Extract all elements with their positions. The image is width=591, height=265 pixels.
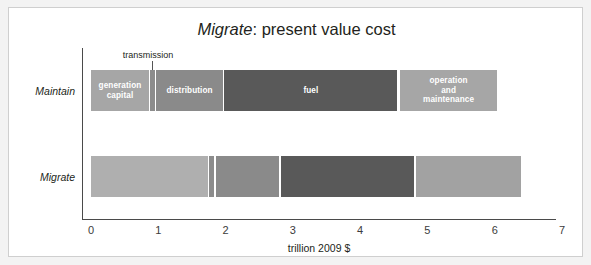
- x-tick-0: 0: [76, 224, 106, 236]
- bar-maintain: generationcapital distribution fuel oper…: [9, 70, 584, 111]
- chart-panel: Migrate: present value cost transmission…: [8, 7, 583, 257]
- segment-maintain-operation-and-maintenance[interactable]: operationandmaintenance: [400, 70, 497, 111]
- x-tick-5: 5: [412, 224, 442, 236]
- x-tick-4: 4: [345, 224, 375, 236]
- segment-maintain-distribution[interactable]: distribution: [156, 70, 223, 111]
- segment-label: fuel: [303, 86, 318, 95]
- segment-migrate-transmission[interactable]: [209, 156, 214, 197]
- bar-migrate: [9, 156, 584, 197]
- segment-maintain-generation-capital[interactable]: generationcapital: [91, 70, 149, 111]
- segment-migrate-operation-and-maintenance[interactable]: [416, 156, 521, 197]
- segment-maintain-transmission[interactable]: [150, 70, 155, 111]
- segment-maintain-fuel[interactable]: fuel: [224, 70, 397, 111]
- transmission-leader-line: [152, 61, 153, 70]
- segment-label: generationcapital: [99, 81, 142, 100]
- x-axis-line: [82, 219, 556, 220]
- x-axis-title: trillion 2009 $: [82, 242, 556, 254]
- plot-area: transmission generationcapital distribut…: [9, 8, 584, 258]
- category-label-migrate: Migrate: [11, 171, 75, 183]
- x-tick-1: 1: [143, 224, 173, 236]
- x-tick-3: 3: [278, 224, 308, 236]
- x-tick-6: 6: [480, 224, 510, 236]
- segment-migrate-fuel[interactable]: [281, 156, 414, 197]
- segment-label: operationandmaintenance: [423, 76, 474, 104]
- category-label-maintain: Maintain: [11, 85, 75, 97]
- x-tick-2: 2: [211, 224, 241, 236]
- chart-screenshot: Migrate: present value cost transmission…: [0, 0, 591, 265]
- segment-label: distribution: [166, 86, 212, 95]
- segment-migrate-generation-capital[interactable]: [91, 156, 208, 197]
- transmission-annotation-label: transmission: [88, 50, 208, 60]
- x-tick-7: 7: [547, 224, 577, 236]
- segment-migrate-distribution[interactable]: [216, 156, 279, 197]
